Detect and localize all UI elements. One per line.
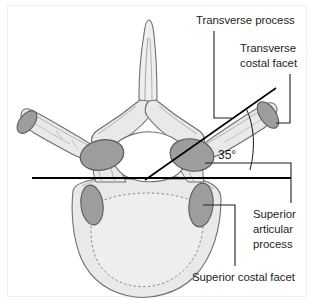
label-transverse-costal-facet-line2: costal facet xyxy=(240,57,298,69)
spinous-process xyxy=(139,20,157,108)
leader-transverse-costal-facet xyxy=(276,74,290,123)
label-transverse-process: Transverse process xyxy=(196,14,295,26)
label-superior-articular-process-line2: articular xyxy=(253,223,293,235)
angle-annotation: 35° xyxy=(218,148,236,162)
label-transverse-costal-facet-line1: Transverse xyxy=(240,42,296,54)
anatomy-figure: Transverse process Transverse costal fac… xyxy=(0,0,315,307)
vertebra-diagram: Transverse process Transverse costal fac… xyxy=(0,0,315,307)
label-superior-costal-facet: Superior costal facet xyxy=(192,271,296,283)
leader-transverse-process xyxy=(214,31,232,118)
label-superior-articular-process-line3: process xyxy=(253,238,293,250)
label-superior-articular-process-line1: Superior xyxy=(253,208,296,220)
